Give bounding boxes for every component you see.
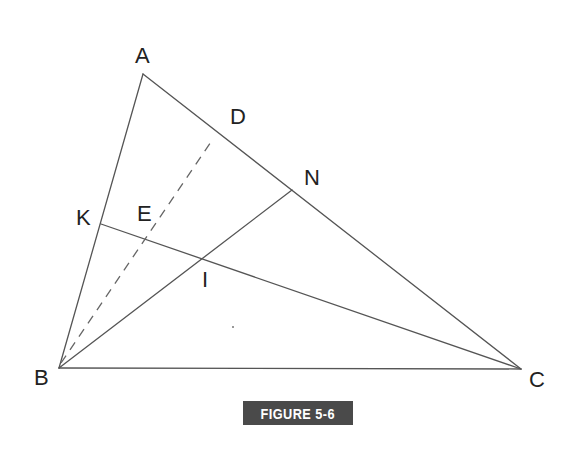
label-D: D	[230, 104, 246, 129]
figure-caption-badge: FIGURE 5-6	[243, 401, 353, 425]
label-N: N	[304, 165, 320, 190]
label-B: B	[34, 365, 49, 390]
label-E: E	[137, 201, 152, 226]
segment-BN	[59, 190, 292, 368]
segment-KC	[101, 224, 521, 369]
segment-BC	[59, 368, 521, 369]
label-I: I	[202, 267, 208, 292]
geometry-diagram: A D N K E I B C	[0, 0, 584, 458]
segment-BD-dashed	[61, 139, 213, 363]
segment-AB	[59, 74, 143, 368]
label-A: A	[135, 43, 150, 68]
label-K: K	[76, 205, 91, 230]
figure-caption: FIGURE 5-6	[261, 405, 335, 422]
segment-AC	[143, 74, 521, 369]
label-C: C	[529, 367, 545, 392]
stray-dot	[232, 326, 234, 328]
